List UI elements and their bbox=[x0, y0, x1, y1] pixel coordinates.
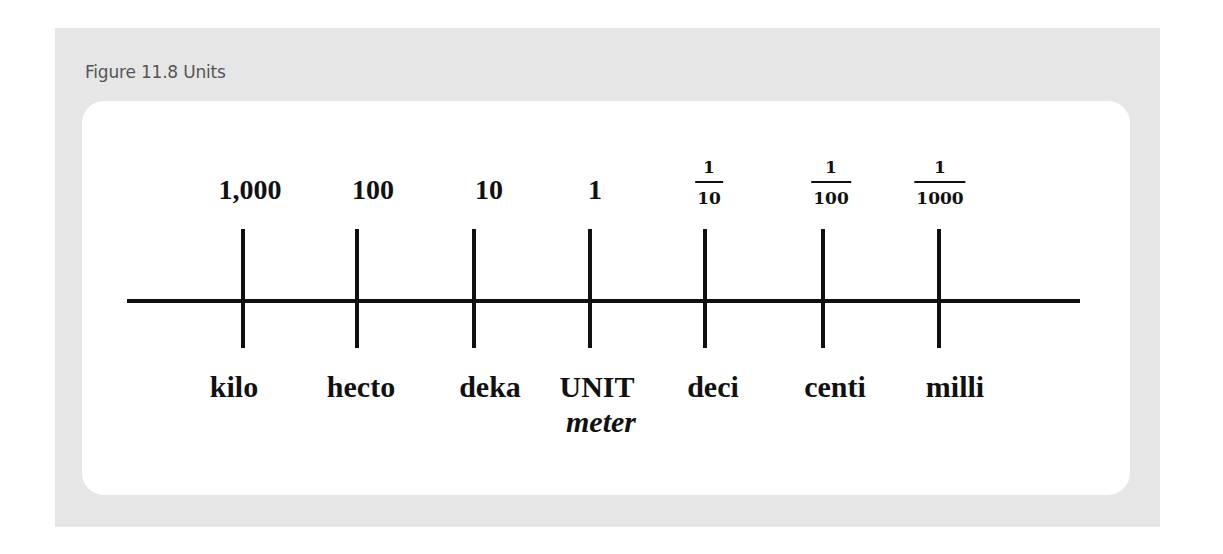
value-centi-fraction: 1 100 bbox=[811, 156, 851, 209]
figure-title: Figure 11.8 Units bbox=[85, 62, 226, 82]
fraction-bar bbox=[695, 181, 723, 183]
value-deci-fraction: 1 10 bbox=[695, 156, 723, 209]
prefix-deci: deci bbox=[687, 370, 739, 404]
fraction-numerator: 1 bbox=[825, 156, 837, 178]
tick-deci bbox=[703, 229, 707, 348]
fraction-denominator: 1000 bbox=[914, 187, 965, 209]
value-hecto: 100 bbox=[352, 174, 394, 206]
tick-deka bbox=[472, 229, 476, 348]
tick-centi bbox=[821, 229, 825, 348]
fraction-denominator: 10 bbox=[695, 187, 723, 209]
value-milli-fraction: 1 1000 bbox=[914, 156, 965, 209]
fraction-numerator: 1 bbox=[934, 156, 946, 178]
prefix-unit: UNIT bbox=[559, 370, 634, 404]
value-kilo: 1,000 bbox=[219, 174, 282, 206]
prefix-centi: centi bbox=[804, 370, 866, 404]
prefix-milli: milli bbox=[926, 370, 984, 404]
tick-milli bbox=[937, 229, 941, 348]
unit-name: meter bbox=[566, 405, 636, 439]
fraction-denominator: 100 bbox=[811, 187, 851, 209]
tick-unit bbox=[588, 229, 592, 348]
fraction-bar bbox=[811, 181, 851, 183]
fraction-bar bbox=[914, 181, 965, 183]
fraction-numerator: 1 bbox=[703, 156, 715, 178]
prefix-hecto: hecto bbox=[327, 370, 395, 404]
tick-hecto bbox=[355, 229, 359, 348]
figure-panel: Figure 11.8 Units bbox=[55, 28, 1160, 527]
prefix-deka: deka bbox=[459, 370, 521, 404]
prefix-kilo: kilo bbox=[210, 370, 258, 404]
tick-kilo bbox=[241, 229, 245, 348]
value-unit: 1 bbox=[588, 174, 602, 206]
value-deka: 10 bbox=[475, 174, 503, 206]
